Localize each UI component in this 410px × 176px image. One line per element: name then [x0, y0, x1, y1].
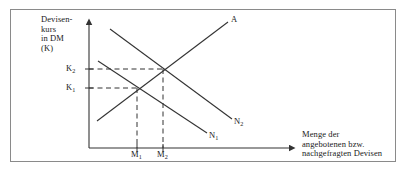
demand-curve-n1-label: N1	[209, 131, 218, 141]
x-tick-label-m2: M2	[157, 150, 168, 160]
y-tick-label-k2-subscript: 2	[72, 67, 75, 74]
demand-curve-n1	[98, 61, 207, 133]
supply-curve-label: A	[231, 15, 237, 25]
x-tick-label-m1-text: M	[131, 149, 139, 159]
y-tick-label-k1: K1	[66, 83, 75, 93]
axis-group	[89, 24, 290, 148]
demand-curve-n2-label-subscript: 2	[240, 120, 243, 127]
demand-curve-n1-label-subscript: 1	[215, 134, 218, 141]
curves-group	[97, 22, 232, 133]
y-axis-title: Devisen- kurs in DM (K)	[41, 15, 72, 53]
demand-curve-n2-label: N2	[234, 117, 243, 127]
guide-lines-group	[89, 69, 163, 148]
x-tick-label-m2-subscript: 2	[165, 153, 168, 160]
x-tick-label-m2-text: M	[157, 149, 165, 159]
demand-curve-n2	[110, 29, 232, 119]
y-tick-label-k2: K2	[66, 64, 75, 74]
y-tick-label-k1-subscript: 1	[72, 86, 75, 93]
tick-marks-group	[85, 69, 163, 152]
x-axis-title: Menge der angebotenen bzw. nachgefragten…	[302, 130, 382, 159]
x-tick-label-m1: M1	[131, 150, 142, 160]
supply-curve-label-text: A	[231, 14, 237, 24]
x-tick-label-m1-subscript: 1	[139, 153, 142, 160]
exchange-rate-diagram: Devisen- kurs in DM (K) Menge der angebo…	[0, 0, 410, 176]
